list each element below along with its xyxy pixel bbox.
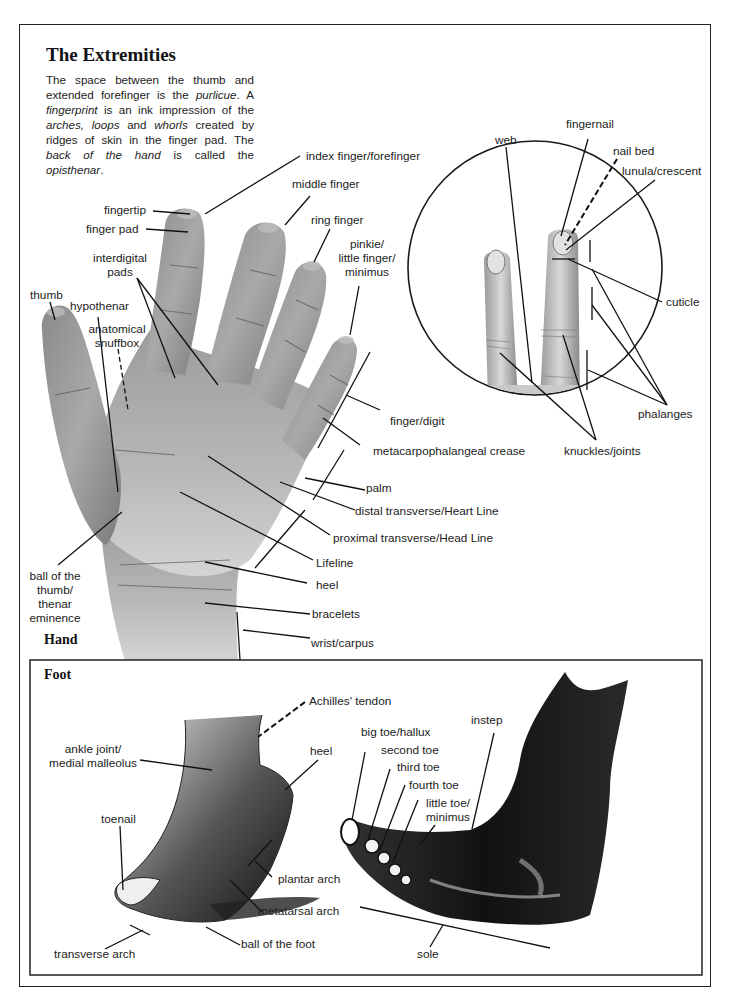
label-third-toe: third toe xyxy=(397,760,440,774)
label-thenar-line1: ball of the xyxy=(24,569,86,583)
label-toenail: toenail xyxy=(101,812,136,826)
label-bracelets: bracelets xyxy=(312,607,360,621)
label-little-toe-line2: minimus xyxy=(420,810,476,824)
label-big-toe: big toe/hallux xyxy=(361,725,431,739)
label-little-toe-line1: little toe/ xyxy=(420,796,476,810)
label-heel: heel xyxy=(316,578,338,592)
intro-text: is called the xyxy=(161,148,254,161)
label-snuffbox-line1: anatomical xyxy=(84,322,150,336)
label-cuticle: cuticle xyxy=(666,295,699,309)
intro-text: and xyxy=(119,118,154,131)
label-anatomical-snuffbox: anatomical snuffbox xyxy=(84,322,150,350)
label-fourth-toe: fourth toe xyxy=(409,778,459,792)
intro-term: fingerprint xyxy=(46,103,98,116)
label-ring-finger: ring finger xyxy=(311,213,363,227)
intro-term: back of the hand xyxy=(46,148,161,161)
label-instep: instep xyxy=(471,713,502,727)
label-pinkie-line2: little finger/ xyxy=(332,251,402,265)
label-achilles-tendon: Achilles' tendon xyxy=(309,694,391,708)
label-sole: sole xyxy=(417,947,439,961)
label-index-finger: index finger/forefinger xyxy=(306,149,420,163)
intro-term: arches, loops xyxy=(46,118,119,131)
label-pinkie: pinkie/ little finger/ minimus xyxy=(332,237,402,279)
intro-term: whorls xyxy=(154,118,188,131)
label-pinkie-line3: minimus xyxy=(332,265,402,279)
intro-paragraph: The space between the thumb and extended… xyxy=(46,72,254,177)
label-pinkie-line1: pinkie/ xyxy=(332,237,402,251)
label-thenar-line3: thenar xyxy=(24,597,86,611)
label-finger-pad: finger pad xyxy=(86,222,138,236)
finger-detail-illustration xyxy=(408,141,662,420)
page-title: The Extremities xyxy=(46,44,176,66)
label-plantar-arch: plantar arch xyxy=(278,872,340,886)
label-interdigital-line1: interdigital xyxy=(90,251,150,265)
label-lifeline: Lifeline xyxy=(316,556,353,570)
label-web: web xyxy=(495,133,517,147)
label-second-toe: second toe xyxy=(381,743,439,757)
foot-section-label: Foot xyxy=(44,667,71,683)
label-middle-finger: middle finger xyxy=(292,177,360,191)
label-palm: palm xyxy=(366,481,392,495)
label-wrist: wrist/carpus xyxy=(311,636,374,650)
label-knuckles: knuckles/joints xyxy=(564,444,641,458)
label-thenar-eminence: ball of the thumb/ thenar eminence xyxy=(24,569,86,625)
label-head-line: proximal transverse/Head Line xyxy=(333,531,493,545)
hand-section-label: Hand xyxy=(44,632,77,648)
label-lunula: lunula/crescent xyxy=(622,164,701,178)
intro-text: is an ink impression of the xyxy=(98,103,254,116)
label-hypothenar: hypothenar xyxy=(70,299,129,313)
label-ball-of-foot: ball of the foot xyxy=(241,937,315,951)
label-ankle-line2: medial malleolus xyxy=(44,756,142,770)
label-finger-digit: finger/digit xyxy=(390,414,444,428)
label-ankle-joint: ankle joint/ medial malleolus xyxy=(44,742,142,770)
label-interdigital-line2: pads xyxy=(90,265,150,279)
label-metatarsal-arch: metatarsal arch xyxy=(258,904,339,918)
label-nail-bed: nail bed xyxy=(613,144,654,158)
intro-text: . xyxy=(100,163,103,176)
intro-term: purlicue xyxy=(196,88,237,101)
label-ankle-line1: ankle joint/ xyxy=(44,742,142,756)
label-heart-line: distal transverse/Heart Line xyxy=(355,504,499,518)
label-thenar-line2: thumb/ xyxy=(24,583,86,597)
intro-text: . A xyxy=(237,88,255,101)
label-foot-heel: heel xyxy=(310,744,332,758)
label-snuffbox-line2: snuffbox xyxy=(84,336,150,350)
label-fingernail: fingernail xyxy=(566,117,614,131)
label-interdigital-pads: interdigital pads xyxy=(90,251,150,279)
label-mcp-crease: metacarpophalangeal crease xyxy=(373,444,525,458)
label-thenar-line4: eminence xyxy=(24,611,86,625)
label-phalanges: phalanges xyxy=(638,407,692,421)
label-fingertip: fingertip xyxy=(104,203,146,217)
intro-term: opisthenar xyxy=(46,163,100,176)
label-little-toe: little toe/ minimus xyxy=(420,796,476,824)
label-transverse-arch: transverse arch xyxy=(54,947,135,961)
label-thumb: thumb xyxy=(30,288,63,302)
